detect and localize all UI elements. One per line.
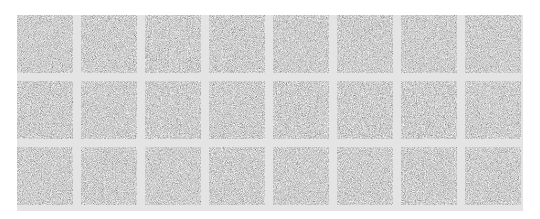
noise-tile	[209, 147, 265, 205]
noise-tile	[337, 147, 393, 205]
noise-tile	[209, 15, 265, 73]
noise-tile	[273, 81, 329, 139]
noise-tile	[273, 147, 329, 205]
noise-tile	[337, 81, 393, 139]
noise-tile	[17, 15, 73, 73]
tile-grid	[17, 15, 521, 205]
noise-tile	[465, 147, 521, 205]
noise-tile	[337, 15, 393, 73]
noise-tile	[401, 81, 457, 139]
tile-panel	[17, 15, 523, 211]
noise-tile	[145, 15, 201, 73]
noise-tile	[81, 81, 137, 139]
noise-tile	[17, 81, 73, 139]
noise-tile	[401, 147, 457, 205]
noise-tile	[145, 147, 201, 205]
noise-tile	[465, 15, 521, 73]
noise-tile	[17, 147, 73, 205]
noise-tile	[465, 81, 521, 139]
noise-tile	[145, 81, 201, 139]
noise-tile	[401, 15, 457, 73]
canvas	[0, 0, 540, 219]
noise-tile	[273, 15, 329, 73]
noise-tile	[81, 147, 137, 205]
noise-tile	[209, 81, 265, 139]
noise-tile	[81, 15, 137, 73]
